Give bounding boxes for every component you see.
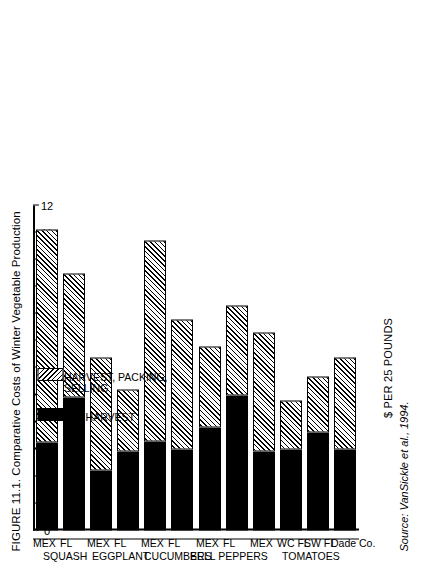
- group-rule: [87, 538, 141, 539]
- bar-segment-preharvest: [253, 451, 275, 530]
- bar-segment-harvest-packing-selling: [144, 240, 166, 440]
- bar-row: [117, 205, 139, 530]
- group-rule: [250, 538, 359, 539]
- bar-segment-preharvest: [334, 449, 356, 530]
- figure-source: Source: VanSickle et al., 1994.: [398, 401, 410, 551]
- bar-row: [226, 205, 248, 530]
- bar-segment-preharvest: [117, 451, 139, 530]
- bar-segment-preharvest: [307, 433, 329, 531]
- bar-segment-harvest-packing-selling: [307, 376, 329, 433]
- bar-segment-harvest-packing-selling: [171, 319, 193, 449]
- bar-segment-preharvest: [90, 470, 112, 530]
- bar-row: [253, 205, 275, 530]
- bar-row: [199, 205, 221, 530]
- group-label: CUCUMBERS: [144, 549, 212, 561]
- figure-page: FIGURE 11.1. Comparative Costs of Winter…: [0, 0, 422, 577]
- group-rule: [33, 538, 87, 539]
- bar-segment-harvest-packing-selling: [280, 400, 302, 449]
- bar-segment-preharvest: [171, 449, 193, 530]
- group-label: EGGPLANT: [92, 549, 149, 561]
- source-text: VanSickle et al., 1994.: [398, 401, 410, 513]
- plot-area: 0123456789101112 Dade Co.SW FLWC FLMEXFL…: [33, 205, 359, 530]
- legend-swatch-harvest: [38, 368, 64, 381]
- bar-row: [90, 205, 112, 530]
- figure-canvas: FIGURE 11.1. Comparative Costs of Winter…: [0, 0, 422, 577]
- bar-segment-harvest-packing-selling: [199, 346, 221, 427]
- legend-label-preharvest: PREHARVEST: [64, 411, 135, 422]
- bar-segment-harvest-packing-selling: [226, 305, 248, 394]
- bar-row: [63, 205, 85, 530]
- group-label: SQUASH: [43, 549, 87, 561]
- bar-segment-preharvest: [226, 395, 248, 530]
- bar-row: [171, 205, 193, 530]
- figure-title: FIGURE 11.1. Comparative Costs of Winter…: [10, 211, 22, 551]
- bar-segment-preharvest: [280, 449, 302, 530]
- legend-label-harvest: HARVEST, PACKING,SELLING: [64, 371, 167, 393]
- bar-row: [307, 205, 329, 530]
- group-rule: [142, 538, 196, 539]
- bar-segment-preharvest: [199, 427, 221, 530]
- bar-segment-harvest-packing-selling: [253, 332, 275, 451]
- group-label: TOMATOES: [282, 549, 340, 561]
- bar-row: [334, 205, 356, 530]
- bar-segment-preharvest: [36, 442, 58, 530]
- legend-label-harvest-line2: SELLING: [64, 382, 167, 393]
- bar-row: [280, 205, 302, 530]
- group-rule: [196, 538, 250, 539]
- source-label: Source:: [398, 513, 410, 551]
- bar-row: [144, 205, 166, 530]
- bar-segment-harvest-packing-selling: [334, 357, 356, 449]
- legend-swatch-preharvest: [38, 408, 64, 421]
- value-axis-title: $ PER 25 POUNDS: [382, 205, 394, 530]
- bar-segment-preharvest: [144, 441, 166, 530]
